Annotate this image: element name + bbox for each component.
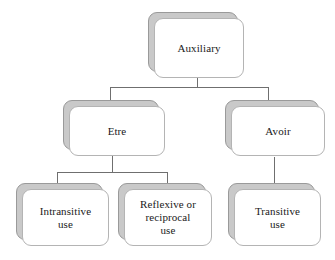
node-card: Etre [69, 106, 165, 156]
node-transitive-use[interactable]: Transitive use [228, 183, 315, 240]
node-card: Reflexive or reciprocal use [124, 189, 212, 246]
node-card: Avoir [231, 106, 325, 156]
node-label: Auxiliary [174, 42, 223, 55]
node-auxiliary[interactable]: Auxiliary [148, 12, 238, 72]
connector-to-etre [110, 87, 111, 101]
connector-etre-bar [57, 172, 168, 173]
node-label: Avoir [262, 125, 293, 138]
node-label: Reflexive or reciprocal use [137, 198, 199, 237]
node-label: Intransitive use [37, 205, 94, 231]
connector-etre-stem [112, 156, 113, 172]
node-card: Auxiliary [154, 18, 244, 78]
node-card: Intransitive use [22, 189, 109, 246]
node-reflexive-or-reciprocal-use[interactable]: Reflexive or reciprocal use [118, 183, 206, 240]
node-label: Transitive use [252, 205, 303, 231]
connector-auxiliary-bar [110, 87, 269, 88]
node-label: Etre [105, 125, 130, 138]
node-card: Transitive use [234, 189, 321, 246]
connector-to-avoir [268, 87, 269, 101]
connector-avoir-stem [274, 157, 275, 184]
diagram-canvas: Auxiliary Etre Avoir Intransitive use Re… [0, 0, 335, 260]
node-etre[interactable]: Etre [63, 100, 159, 150]
node-intransitive-use[interactable]: Intransitive use [16, 183, 103, 240]
node-avoir[interactable]: Avoir [225, 100, 319, 150]
